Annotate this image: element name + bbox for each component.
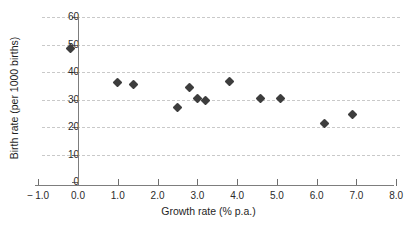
y-axis-tick-label: 40 [53,67,79,77]
x-axis-line [35,185,394,186]
plot-area: 0102030405060 − 1.00.01.02.03.04.05.06.0… [0,0,417,226]
x-axis-tick-label: 3.0 [177,190,217,201]
data-point [224,77,234,87]
x-axis-title: Growth rate (% p.a.) [0,205,417,217]
y-axis-tick-label: 20 [53,122,79,132]
x-axis-tick-label: 1.0 [98,190,138,201]
x-axis-tick-label: − 1.0 [18,190,58,201]
data-point [172,103,182,113]
x-axis-tick-8 [396,179,397,186]
y-axis-tick-label: 30 [53,95,79,105]
data-point [256,93,266,103]
y-axis-title: Birth rate (per 1000 births) [8,8,20,188]
gridline-y-10 [42,155,400,156]
data-point [184,83,194,93]
x-axis-tick-label: 8.0 [376,190,416,201]
data-point [113,77,123,87]
x-axis-tick-label: 5.0 [257,190,297,201]
x-axis-tick-label: 4.0 [217,190,257,201]
gridline-y-40 [42,72,400,73]
gridline-y-50 [42,45,400,46]
gridline-y-60 [42,17,400,18]
x-axis-tick-label: 7.0 [336,190,376,201]
y-axis-tick-label: 60 [53,12,79,22]
y-axis-line [78,14,79,186]
gridline-y-20 [42,127,400,128]
y-axis-tick-label: 10 [53,150,79,160]
gridline-y-30 [42,100,400,101]
data-point [276,93,286,103]
data-point [348,109,358,119]
x-axis-tick-label: 2.0 [138,190,178,201]
scatter-chart: 0102030405060 − 1.00.01.02.03.04.05.06.0… [0,0,417,226]
x-axis-tick-label: 6.0 [297,190,337,201]
data-point [200,96,210,106]
data-point [129,79,139,89]
x-axis-tick-label: 0.0 [58,190,98,201]
